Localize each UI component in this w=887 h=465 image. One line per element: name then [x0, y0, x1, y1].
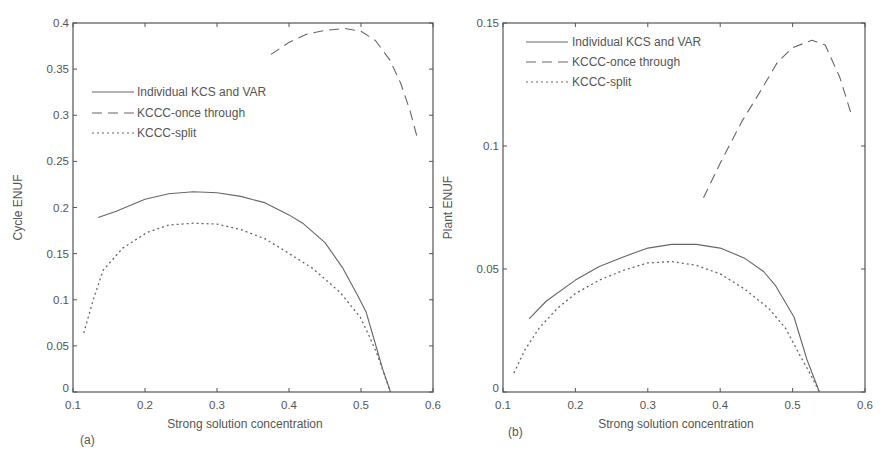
legend-label: Individual KCS and VAR	[572, 35, 702, 49]
series-line-kccc-split	[514, 262, 820, 392]
y-axis-title: Plant ENUF	[441, 176, 455, 239]
series-line-individual-kcs-and-var	[529, 244, 819, 392]
y-axis-title: Cycle ENUF	[11, 174, 25, 240]
y-tick-label: 0.2	[53, 202, 69, 214]
y-tick-label: 0	[493, 382, 499, 394]
y-tick-label: 0.05	[47, 340, 69, 352]
plot-frame	[503, 23, 865, 392]
x-tick-label: 0.6	[425, 399, 441, 411]
panel-label: (b)	[508, 425, 523, 439]
legend-label: Individual KCS and VAR	[137, 85, 267, 99]
legend-label: KCCC-once through	[137, 106, 245, 120]
series-line-kccc-once-through	[271, 29, 418, 141]
legend-label: KCCC-split	[572, 75, 632, 89]
y-tick-label: 0.25	[47, 155, 69, 167]
panel-label: (a)	[80, 433, 95, 447]
series-line-kccc-once-through	[704, 40, 852, 198]
y-tick-label: 0.05	[477, 263, 499, 275]
y-tick-label: 0.3	[53, 109, 69, 121]
y-tick-label: 0	[63, 382, 69, 394]
x-tick-label: 0.4	[281, 399, 298, 411]
series-line-individual-kcs-and-var	[98, 192, 390, 392]
plot-frame	[73, 23, 433, 392]
chart-panel-a: 0.10.20.30.40.50.600.050.10.150.20.250.3…	[11, 17, 441, 447]
legend-label: KCCC-once through	[572, 55, 680, 69]
x-axis-title: Strong solution concentration	[598, 417, 753, 431]
y-tick-label: 0.15	[477, 17, 499, 29]
x-tick-label: 0.1	[495, 399, 511, 411]
y-tick-label: 0.4	[53, 17, 70, 29]
y-tick-label: 0.1	[53, 294, 69, 306]
y-tick-label: 0.35	[47, 63, 69, 75]
x-tick-label: 0.3	[209, 399, 225, 411]
y-tick-label: 0.1	[483, 140, 499, 152]
y-tick-label: 0.15	[47, 248, 69, 260]
x-tick-label: 0.2	[567, 399, 583, 411]
chart-figure: 0.10.20.30.40.50.600.050.10.150.20.250.3…	[0, 0, 887, 465]
x-tick-label: 0.2	[137, 399, 153, 411]
chart-panel-b: 0.10.20.30.40.50.600.050.10.15Strong sol…	[441, 17, 873, 439]
x-tick-label: 0.3	[640, 399, 656, 411]
x-tick-label: 0.5	[353, 399, 369, 411]
legend-label: KCCC-split	[137, 126, 197, 140]
series-line-kccc-split	[84, 223, 391, 392]
x-axis-title: Strong solution concentration	[167, 417, 322, 431]
x-tick-label: 0.1	[65, 399, 81, 411]
x-tick-label: 0.5	[785, 399, 801, 411]
x-tick-label: 0.6	[857, 399, 873, 411]
x-tick-label: 0.4	[712, 399, 729, 411]
